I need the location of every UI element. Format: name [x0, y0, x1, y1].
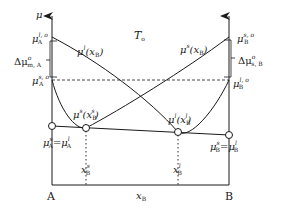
point-a-equilibrium: [49, 123, 56, 130]
xs-label: xsB: [81, 163, 90, 176]
solid-curve-label: μs(xB): [180, 43, 207, 56]
mu-a-liquid-standard: μl, oA: [32, 32, 42, 45]
point-xs: [83, 125, 90, 132]
delta-mu-m-a: Δμom, A: [14, 55, 41, 68]
common-tangent: [52, 126, 229, 135]
x-axis-label: xB: [136, 191, 146, 202]
left-delta-bracket: [50, 41, 57, 77]
point-b-equilibrium: [226, 132, 233, 139]
a-equality-label: μsA=μlA: [43, 136, 71, 149]
temperature-label: To: [134, 30, 145, 42]
delta-mu-s-b: Δμos, B: [238, 54, 263, 67]
component-b-label: B: [225, 191, 233, 202]
y-axis-label: μ: [36, 10, 43, 20]
xl-label: xlB: [173, 163, 182, 176]
liquid-min-label: μl(xBl): [168, 113, 191, 126]
point-xl: [175, 129, 182, 136]
component-a-label: A: [47, 191, 55, 202]
mu-b-liquid-standard: μl, oB: [233, 77, 243, 90]
liquid-curve-label: μl(xB): [77, 45, 103, 58]
solid-min-label: μs(xBs): [73, 108, 99, 121]
mu-a-solid-standard: μs, oA: [32, 74, 43, 87]
mu-b-solid-standard: μs, oB: [237, 32, 248, 45]
right-delta-bracket: [224, 40, 231, 77]
b-equality-label: μsB=μlB: [210, 140, 238, 153]
